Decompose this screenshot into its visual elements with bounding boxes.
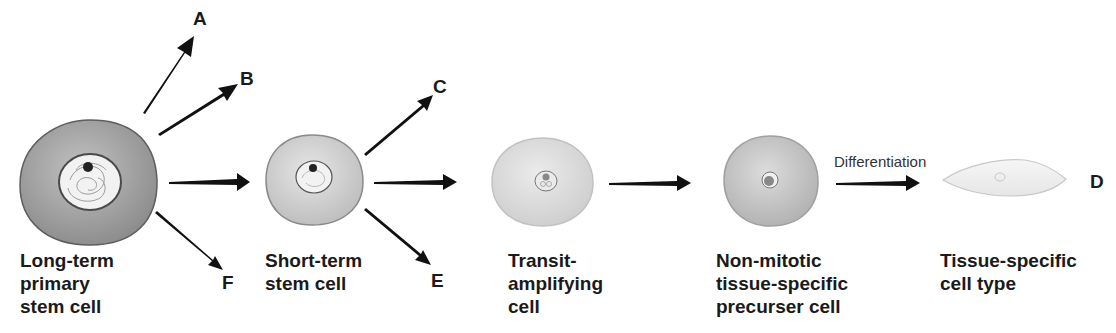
- branch-letter-e: E: [431, 270, 444, 292]
- non-mitotic-precursor-cell: [724, 136, 818, 226]
- label-transit-amplifying-cell: Transit- amplifying cell: [508, 249, 603, 318]
- label-tissue-specific-cell: Tissue-specific cell type: [940, 249, 1077, 295]
- label-non-mitotic-precursor-cell: Non-mitotic tissue-specific precurser ce…: [716, 249, 848, 318]
- label-short-term-stem-cell: Short-term stem cell: [265, 249, 362, 295]
- arrow-transit-to-non-mitotic: [609, 175, 691, 191]
- branch-letter-a: A: [193, 8, 207, 30]
- long-term-stem-cell: [20, 120, 157, 245]
- short-term-stem-cell: [266, 135, 363, 225]
- tissue-specific-cell: [943, 160, 1066, 196]
- arrow-long-term-to-short-term: [169, 173, 250, 191]
- arrow-to-e: [364, 208, 431, 265]
- arrow-to-b: [158, 84, 238, 136]
- arrow-to-c: [364, 95, 433, 156]
- branch-letter-c: C: [433, 76, 447, 98]
- arrow-differentiation: [836, 175, 920, 191]
- label-long-term-stem-cell: Long-term primary stem cell: [20, 249, 114, 318]
- arrow-to-f: [155, 211, 223, 270]
- branch-letter-b: B: [240, 68, 254, 90]
- arrow-short-term-to-transit: [374, 174, 457, 190]
- branch-letter-f: F: [222, 272, 234, 294]
- branch-letter-d: D: [1090, 171, 1104, 193]
- differentiation-label: Differentiation: [834, 153, 926, 170]
- transit-amplifying-cell: [492, 138, 593, 226]
- arrow-to-a: [143, 36, 194, 114]
